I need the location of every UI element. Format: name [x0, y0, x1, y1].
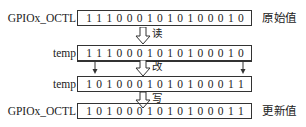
bit: 0 — [217, 77, 225, 91]
bit: 1 — [227, 11, 235, 25]
bit: 0 — [136, 11, 144, 25]
bit: 1 — [166, 46, 174, 60]
bit: 0 — [136, 77, 144, 91]
bit: 1 — [85, 104, 93, 118]
bit: 0 — [136, 46, 144, 60]
bit: 1 — [186, 77, 194, 91]
bit: 0 — [115, 46, 123, 60]
bit: 1 — [105, 104, 113, 118]
bit: 1 — [227, 46, 235, 60]
bit: 0 — [196, 77, 204, 91]
bit: 0 — [115, 104, 123, 118]
bit: 0 — [196, 104, 204, 118]
bit: 1 — [146, 104, 154, 118]
bit: 1 — [146, 77, 154, 91]
bit: 0 — [176, 77, 184, 91]
bit: 1 — [237, 77, 245, 91]
bit: 0 — [95, 77, 103, 91]
bit: 1 — [166, 77, 174, 91]
bit: 0 — [126, 46, 134, 60]
bit: 1 — [166, 104, 174, 118]
bit: 0 — [196, 11, 204, 25]
bit: 0 — [217, 46, 225, 60]
bit: 0 — [207, 11, 215, 25]
bit: 0 — [217, 104, 225, 118]
bit: 0 — [95, 104, 103, 118]
bit: 1 — [227, 77, 235, 91]
bit: 0 — [176, 104, 184, 118]
register-row-original: GPIOx_OCTL 1 1 1 0 0 0 1 0 1 0 1 0 0 0 1… — [0, 10, 306, 26]
register-label: GPIOx_OCTL — [8, 10, 76, 26]
bit: 1 — [85, 11, 93, 25]
bit: 0 — [156, 77, 164, 91]
bit: 1 — [95, 46, 103, 60]
bit: 0 — [207, 46, 215, 60]
step-read: 读 — [135, 27, 175, 45]
hollow-down-arrow-icon — [135, 27, 151, 45]
bit: 1 — [105, 77, 113, 91]
bit: 1 — [95, 11, 103, 25]
bit: 0 — [126, 11, 134, 25]
step-label: 改 — [152, 60, 162, 72]
register-bits-box: 1 0 1 0 0 0 1 0 1 0 1 0 0 0 1 1 — [77, 76, 252, 92]
bit: 1 — [146, 46, 154, 60]
bit: 0 — [237, 11, 245, 25]
register-bits-box: 1 1 1 0 0 0 1 0 1 0 1 0 0 0 1 0 — [77, 45, 252, 61]
bit: 1 — [237, 104, 245, 118]
bit: 0 — [115, 77, 123, 91]
register-row-updated: GPIOx_OCTL 1 0 1 0 0 0 1 0 1 0 1 0 0 0 1… — [0, 103, 306, 119]
bit: 0 — [217, 11, 225, 25]
modified-bit-arrow-icon — [93, 62, 98, 74]
bit: 1 — [186, 11, 194, 25]
hollow-down-arrow-icon — [135, 60, 151, 77]
bit: 1 — [105, 11, 113, 25]
bit: 0 — [156, 104, 164, 118]
register-label: GPIOx_OCTL — [8, 103, 76, 119]
original-value-note: 原始值 — [262, 10, 297, 26]
bit: 1 — [85, 77, 93, 91]
register-bits-box: 1 0 1 0 0 0 1 0 1 0 1 0 0 0 1 1 — [77, 103, 252, 119]
register-bits-box: 1 1 1 0 0 0 1 0 1 0 1 0 0 0 1 0 — [77, 10, 252, 26]
bit: 1 — [146, 11, 154, 25]
bit: 0 — [207, 104, 215, 118]
bit: 0 — [126, 77, 134, 91]
bit: 0 — [207, 77, 215, 91]
bit: 1 — [186, 46, 194, 60]
updated-value-note: 更新值 — [262, 103, 297, 119]
register-row-temp-read: temp 1 1 1 0 0 0 1 0 1 0 1 0 0 0 1 0 — [0, 45, 306, 61]
bit: 0 — [196, 46, 204, 60]
modified-bit-arrow-icon — [241, 62, 246, 74]
register-label: temp — [53, 45, 76, 61]
bit: 1 — [85, 46, 93, 60]
bit: 1 — [227, 104, 235, 118]
step-label: 读 — [152, 27, 162, 39]
bit: 0 — [126, 104, 134, 118]
bit: 0 — [115, 11, 123, 25]
bit: 0 — [237, 46, 245, 60]
register-label: temp — [53, 76, 76, 92]
bit: 1 — [186, 104, 194, 118]
bit: 1 — [105, 46, 113, 60]
bit: 0 — [176, 11, 184, 25]
bit: 0 — [136, 104, 144, 118]
bit: 0 — [156, 46, 164, 60]
bit: 1 — [166, 11, 174, 25]
bit: 0 — [156, 11, 164, 25]
bit: 0 — [176, 46, 184, 60]
register-row-temp-modified: temp 1 0 1 0 0 0 1 0 1 0 1 0 0 0 1 1 — [0, 76, 306, 92]
